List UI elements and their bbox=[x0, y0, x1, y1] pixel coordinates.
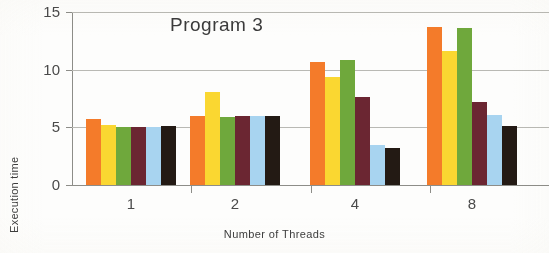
bar bbox=[161, 126, 176, 185]
bar bbox=[235, 116, 250, 185]
bar bbox=[502, 126, 517, 185]
bar bbox=[86, 119, 101, 185]
bar bbox=[190, 116, 205, 185]
y-axis-tick-label: 5 bbox=[20, 119, 60, 134]
x-axis-tick bbox=[311, 185, 312, 193]
bar bbox=[370, 145, 385, 185]
x-axis-title: Number of Threads bbox=[0, 228, 549, 240]
y-axis-tick bbox=[66, 70, 72, 71]
plot-area bbox=[72, 12, 549, 185]
bar bbox=[427, 27, 442, 185]
y-axis-tick bbox=[66, 12, 72, 13]
y-axis-tick bbox=[66, 185, 72, 186]
bar bbox=[325, 77, 340, 185]
bar bbox=[487, 115, 502, 185]
bar bbox=[116, 127, 131, 185]
x-axis-tick-label: 1 bbox=[101, 196, 161, 211]
bar bbox=[355, 97, 370, 185]
bar bbox=[472, 102, 487, 185]
bar bbox=[442, 51, 457, 185]
bar bbox=[265, 116, 280, 185]
bar-group bbox=[427, 12, 517, 185]
y-axis-tick-label: 15 bbox=[20, 4, 60, 19]
bar bbox=[101, 125, 116, 185]
x-axis-tick-label: 8 bbox=[442, 196, 502, 211]
bar bbox=[310, 62, 325, 185]
x-axis-tick bbox=[430, 185, 431, 193]
x-axis-tick-label: 4 bbox=[325, 196, 385, 211]
x-axis-tick bbox=[191, 185, 192, 193]
y-axis-tick-label: 10 bbox=[20, 62, 60, 77]
y-axis-tick bbox=[66, 127, 72, 128]
bar-group bbox=[190, 12, 280, 185]
bar bbox=[340, 60, 355, 185]
bar bbox=[385, 148, 400, 185]
y-axis-tick-label: 0 bbox=[20, 177, 60, 192]
bar bbox=[131, 127, 146, 185]
bar-group bbox=[310, 12, 400, 185]
chart-figure: Program 3 Execution time 051015 1248 Num… bbox=[0, 0, 549, 253]
bar bbox=[457, 28, 472, 185]
bar bbox=[205, 92, 220, 185]
x-axis-tick-label: 2 bbox=[205, 196, 265, 211]
bar bbox=[220, 117, 235, 185]
bar bbox=[250, 116, 265, 185]
bar bbox=[146, 127, 161, 185]
bar-group bbox=[86, 12, 176, 185]
y-axis-title: Execution time bbox=[8, 123, 20, 233]
y-axis-line bbox=[72, 12, 73, 186]
